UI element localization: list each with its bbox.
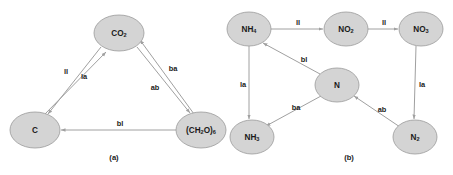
node-n2[interactable]: N2: [393, 120, 437, 154]
panel-a-edges: [44, 40, 194, 130]
panel-a: CO2 C (CH2O)6 ll la ba ab bl (a): [10, 15, 226, 162]
edge-label-ba-a: ba: [169, 64, 179, 73]
node-no3[interactable]: NO3: [399, 12, 443, 46]
edge-label-bl-a: bl: [117, 119, 124, 128]
edge-label-ll-b1: ll: [296, 18, 300, 27]
node-c-label: C: [32, 126, 38, 135]
edge-label-la-b2: la: [419, 80, 426, 89]
edge-label-ab-a: ab: [151, 83, 160, 92]
edge-label-ba-b: ba: [292, 103, 302, 112]
panel-b-caption: (b): [344, 153, 354, 162]
node-ch2o6[interactable]: (CH2O)6: [176, 112, 226, 148]
edge-label-ll-b2: ll: [382, 18, 386, 27]
node-n-label: N: [334, 81, 340, 90]
node-n[interactable]: N: [315, 68, 359, 102]
edge-co2-to-c-ll: [48, 47, 101, 114]
biogeochemical-cycle-diagram: CO2 C (CH2O)6 ll la ba ab bl (a): [0, 0, 453, 175]
figure-root: CO2 C (CH2O)6 ll la ba ab bl (a): [0, 0, 453, 175]
edge-label-la-a: la: [81, 72, 88, 81]
edge-label-bl-b: bl: [301, 55, 308, 64]
edge-label-ab-b: ab: [378, 105, 387, 114]
node-nh3[interactable]: NH3: [230, 120, 274, 154]
panel-b: NH4 NO2 NO3 N NH3 N2: [227, 12, 443, 162]
edge-ch2o-to-co2-ab: [140, 40, 194, 114]
edge-label-la-b1: la: [240, 80, 247, 89]
edge-c-to-co2-la: [44, 52, 106, 115]
edge-co2-to-ch2o-ba: [137, 47, 190, 113]
node-nh4[interactable]: NH4: [227, 12, 271, 46]
edge-no3-to-n2-la: [414, 46, 416, 119]
panel-a-caption: (a): [109, 153, 119, 162]
node-co2[interactable]: CO2: [94, 15, 144, 51]
edge-n-to-nh4-bl: [263, 43, 320, 74]
node-no2[interactable]: NO2: [324, 12, 368, 46]
edge-label-ll-a: ll: [64, 67, 68, 76]
node-c[interactable]: C: [10, 112, 60, 148]
